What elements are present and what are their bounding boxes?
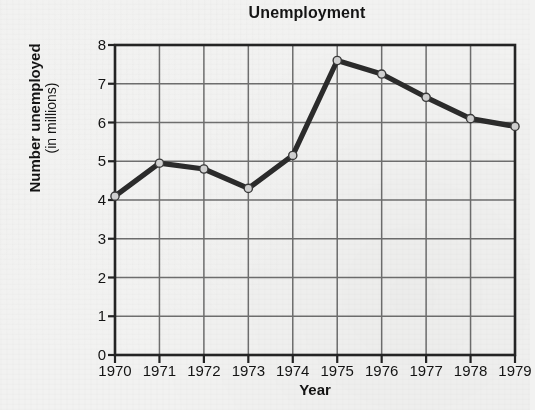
x-axis-tick-label: 1970: [92, 363, 138, 378]
x-axis-tick-label: 1976: [359, 363, 405, 378]
x-axis-tick-labels: 1970197119721973197419751976197719781979: [0, 360, 530, 382]
data-point-markers: [111, 56, 519, 200]
data-line-unemployment: [115, 61, 515, 197]
x-axis-tick-label: 1974: [270, 363, 316, 378]
x-axis-tick-label: 1972: [181, 363, 227, 378]
x-axis-tick-label: 1973: [225, 363, 271, 378]
x-axis-tick-label: 1978: [448, 363, 494, 378]
x-axis-tick-label: 1971: [136, 363, 182, 378]
x-axis-title: Year: [115, 381, 515, 398]
x-axis-tick-label: 1975: [314, 363, 360, 378]
axis-tick-marks: [108, 45, 515, 363]
x-axis-tick-label: 1979: [492, 363, 535, 378]
x-axis-tick-label: 1977: [403, 363, 449, 378]
horizontal-gridlines: [115, 45, 515, 355]
